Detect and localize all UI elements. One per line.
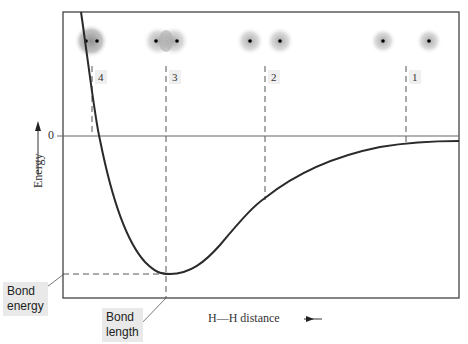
atoms-stage-1 — [370, 28, 442, 54]
stage-2-label: 2 — [268, 70, 280, 84]
stage-1-label: 1 — [409, 70, 421, 84]
atoms-stage-2 — [236, 27, 294, 55]
atoms-stage-3 — [143, 26, 189, 56]
bond-length-line2: length — [106, 325, 139, 340]
bond-length-label: Bond length — [102, 308, 143, 342]
bond-energy-line1: Bond — [7, 284, 44, 299]
atoms-stage-4 — [74, 24, 108, 58]
y-axis-label: Energy — [31, 154, 45, 188]
energy-arrow-head — [35, 121, 41, 131]
potential-energy-diagram: Energy — [0, 0, 468, 344]
potential-energy-curve — [81, 12, 459, 274]
stage-3-label: 3 — [169, 70, 181, 84]
zero-label: 0 — [48, 128, 54, 143]
distance-arrow-head — [306, 316, 314, 322]
bond-energy-label: Bond energy — [3, 282, 48, 316]
stage-4-label: 4 — [95, 70, 107, 84]
plot-frame — [63, 12, 459, 298]
x-axis-label: H—H distance — [208, 311, 280, 326]
bond-energy-line2: energy — [7, 299, 44, 314]
bond-length-line1: Bond — [106, 310, 139, 325]
